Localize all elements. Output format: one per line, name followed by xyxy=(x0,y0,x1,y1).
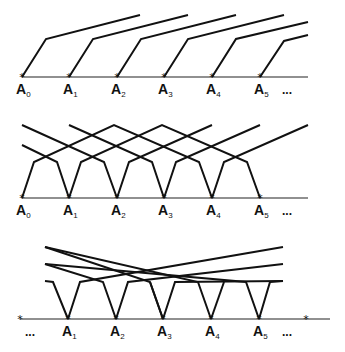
point-label: A0 xyxy=(16,202,31,220)
ellipsis-left: ... xyxy=(25,325,35,339)
point-label: A5 xyxy=(254,202,269,220)
point-label: A1 xyxy=(62,323,77,341)
diagram-canvas: *A0*A1*A2*A3*A4*A5... *A0*A1*A2*A3*A4*A5… xyxy=(0,0,345,352)
connector-line xyxy=(259,281,283,319)
ellipsis: ... xyxy=(282,83,292,97)
panel-2: *A0*A1*A2*A3*A4*A5... xyxy=(16,125,308,220)
connector-line xyxy=(69,125,260,198)
endpoint-star-icon: * xyxy=(303,313,309,326)
point-label: A5 xyxy=(253,323,268,341)
ellipsis-right: ... xyxy=(282,325,292,339)
point-label: A4 xyxy=(206,81,221,99)
point-label: A2 xyxy=(111,202,126,220)
point-label: A3 xyxy=(158,202,173,220)
point-label: A2 xyxy=(110,323,125,341)
point-label: A0 xyxy=(16,81,31,99)
point-label: A4 xyxy=(205,323,220,341)
point-label: A3 xyxy=(157,323,172,341)
connector-line xyxy=(212,125,308,198)
ellipsis: ... xyxy=(282,204,292,218)
endpoint-star-icon: * xyxy=(17,313,23,326)
connector-line xyxy=(22,125,212,198)
point-label: A5 xyxy=(254,81,269,99)
point-label: A2 xyxy=(111,81,126,99)
panel-3: *A1*A2*A3*A4*A5......** xyxy=(17,247,330,341)
connector-line xyxy=(22,145,69,198)
point-label: A3 xyxy=(158,81,173,99)
connector-line xyxy=(45,264,116,319)
point-label: A1 xyxy=(63,202,78,220)
point-label: A4 xyxy=(206,202,221,220)
connector-line xyxy=(260,35,308,77)
panel-1: *A0*A1*A2*A3*A4*A5... xyxy=(16,15,308,99)
point-label: A1 xyxy=(63,81,78,99)
